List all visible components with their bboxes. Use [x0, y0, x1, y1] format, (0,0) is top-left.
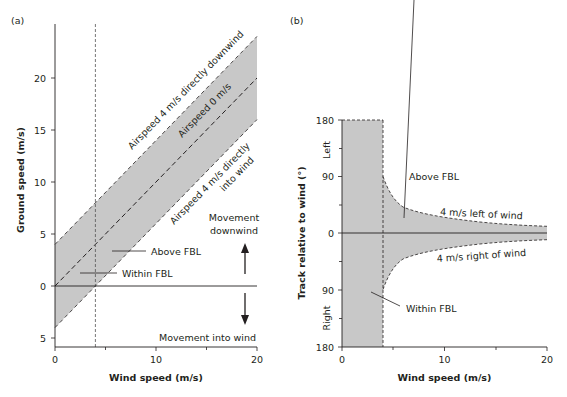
y-tick-180-bottom: 180 — [316, 342, 334, 353]
y-tick-neg5: 5 — [40, 333, 46, 344]
label-right-side: Right — [321, 305, 332, 330]
panel-a-label: (a) — [11, 15, 24, 26]
panel-a: (a) 20 15 10 5 0 5 — [11, 15, 263, 383]
panel-b-label: (b) — [290, 15, 303, 26]
y-tick-0: 0 — [40, 281, 46, 292]
figure: (a) 20 15 10 5 0 5 — [0, 0, 567, 397]
label-right-of-wind: 4 m/s right of wind — [436, 247, 526, 264]
label-within-fbl: Within FBL — [122, 268, 173, 279]
y-tick-0-b: 0 — [328, 228, 334, 239]
x-axis-label: Wind speed (m/s) — [109, 372, 203, 383]
panel-b: (b) 180 90 — [290, 0, 553, 383]
x-tick-20-b: 20 — [541, 354, 553, 365]
y-tick-10: 10 — [34, 177, 46, 188]
y-tick-90-top: 90 — [322, 171, 334, 182]
arrow-down-head-icon — [241, 315, 249, 325]
label-above-fbl: Above FBL — [151, 246, 202, 257]
x-tick-10: 10 — [150, 354, 162, 365]
y-tick-5: 5 — [40, 229, 46, 240]
label-within-fbl-b: Within FBL — [406, 303, 457, 314]
above-fbl-leader-b — [404, 0, 414, 218]
y-axis-label: Ground speed (m/s) — [15, 127, 26, 233]
within-fbl-area — [342, 120, 383, 347]
y-tick-15: 15 — [34, 125, 46, 136]
y-axis-label-b: Track relative to wind (°) — [296, 166, 307, 299]
label-movement-downwind-2: downwind — [210, 225, 258, 236]
label-left-side: Left — [321, 141, 332, 159]
y-tick-20: 20 — [34, 73, 46, 84]
x-axis-label-b: Wind speed (m/s) — [398, 372, 492, 383]
label-movement-into-wind: Movement into wind — [159, 332, 256, 343]
x-tick-10-b: 10 — [438, 354, 450, 365]
label-movement-downwind-1: Movement — [209, 212, 260, 223]
x-tick-0-b: 0 — [339, 354, 345, 365]
arrow-up-head-icon — [241, 243, 249, 253]
y-tick-90-bottom: 90 — [322, 285, 334, 296]
y-tick-180-top: 180 — [316, 115, 334, 126]
x-tick-20: 20 — [251, 354, 263, 365]
x-tick-0: 0 — [52, 354, 58, 365]
label-above-fbl-b: Above FBL — [409, 171, 460, 182]
